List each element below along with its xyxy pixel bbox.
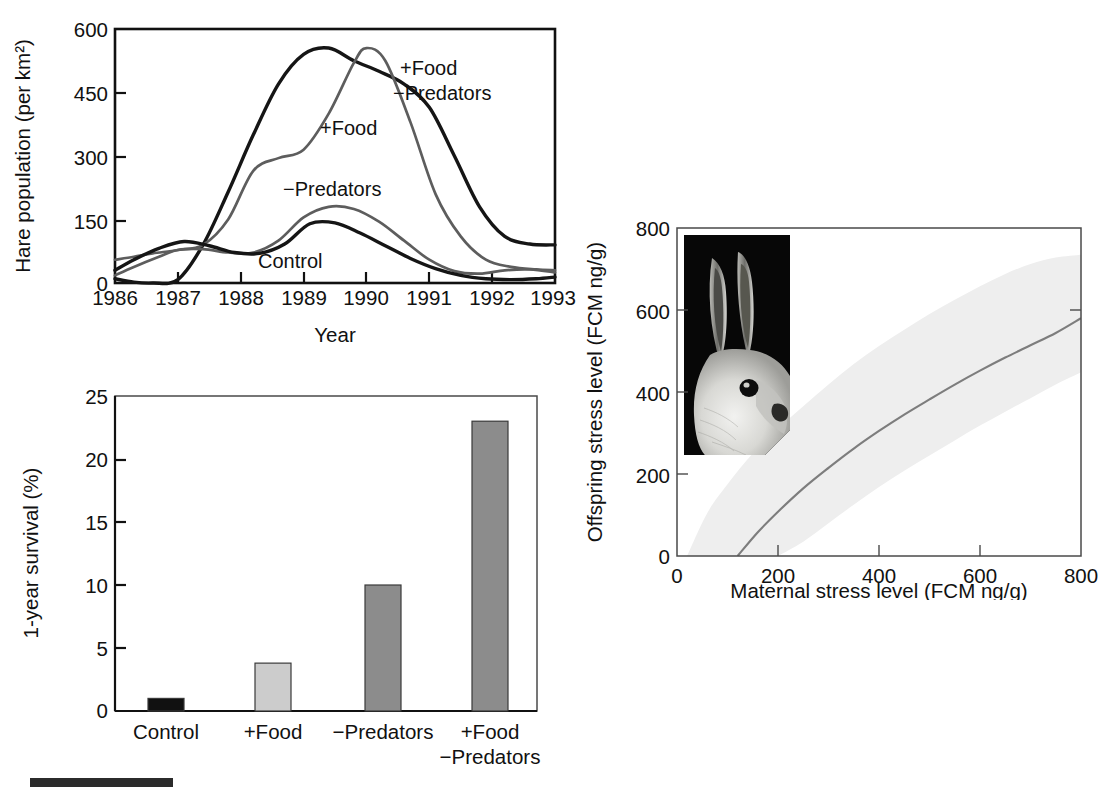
x-tick-1992: 1992 [469, 286, 515, 309]
scatter-x-tick-600: 600 [963, 564, 997, 587]
y-tick-150: 150 [74, 210, 108, 233]
scale-bar [30, 778, 173, 787]
panel-hare-population-timeseries: Hare population (per km²) 600 450 300 15… [0, 0, 580, 370]
annotation-control: Control [258, 250, 322, 272]
y-axis-title: Hare population (per km²) [11, 39, 34, 273]
bar-y-tick-25: 25 [85, 385, 108, 408]
bar-predators[interactable] [365, 585, 401, 711]
scatter-y-tick-800: 800 [636, 217, 670, 240]
bar-y-tick-15: 15 [85, 511, 108, 534]
hare-population-chart-svg: Hare population (per km²) 600 450 300 15… [0, 0, 580, 370]
stress-regression-svg: Offspring stress level (FCM ng/g) 800 60… [560, 180, 1116, 600]
scatter-y-tick-400: 400 [636, 382, 670, 405]
bar-food-predators[interactable] [472, 421, 508, 711]
bars-group [148, 421, 508, 711]
plot-frame [115, 29, 555, 283]
x-tick-1987: 1987 [155, 286, 201, 309]
bar-category-food: +Food [244, 720, 303, 743]
y-tick-300: 300 [74, 146, 108, 169]
scatter-y-tick-0: 0 [659, 545, 670, 568]
y-tick-600: 600 [74, 18, 108, 41]
bar-category-food-predators-line2: −Predators [440, 745, 541, 768]
x-tick-1989: 1989 [281, 286, 327, 309]
scatter-y-tick-200: 200 [636, 464, 670, 487]
x-tick-1990: 1990 [343, 286, 389, 309]
panel-stress-regression: Offspring stress level (FCM ng/g) 800 60… [560, 180, 1116, 600]
scatter-x-tick-400: 400 [862, 564, 896, 587]
bar-y-axis-title: 1-year survival (%) [19, 468, 42, 639]
bar-category-control: Control [133, 720, 199, 743]
scientific-figure: Hare population (per km²) 600 450 300 15… [0, 0, 1116, 794]
x-tick-1991: 1991 [406, 286, 452, 309]
survival-bar-chart-svg: 1-year survival (%) 25 20 15 10 5 0 [0, 370, 580, 770]
panel-one-year-survival: 1-year survival (%) 25 20 15 10 5 0 [0, 370, 580, 770]
bar-y-tick-5: 5 [97, 637, 108, 660]
x-axis-title: Year [314, 323, 356, 346]
bar-y-tick-0: 0 [97, 699, 108, 722]
scatter-y-tick-600: 600 [636, 300, 670, 323]
snowshoe-hare-photo [684, 235, 790, 458]
annotation-predators: −Predators [283, 178, 381, 200]
x-tick-1986: 1986 [92, 286, 138, 309]
annotation-food-predators-line2: −Predators [393, 82, 491, 104]
scatter-x-tick-0: 0 [671, 564, 682, 587]
scatter-y-axis-title: Offspring stress level (FCM ng/g) [583, 242, 606, 542]
bar-y-tick-10: 10 [85, 574, 108, 597]
annotation-food: +Food [320, 117, 377, 139]
bar-food[interactable] [255, 663, 291, 711]
bar-category-predators: −Predators [333, 720, 434, 743]
y-tick-450: 450 [74, 82, 108, 105]
bar-y-tick-20: 20 [85, 448, 108, 471]
bar-control[interactable] [148, 698, 184, 711]
bar-category-food-predators-line1: +Food [461, 720, 520, 743]
x-tick-1988: 1988 [218, 286, 264, 309]
scatter-x-tick-200: 200 [761, 564, 795, 587]
scatter-x-tick-800: 800 [1064, 564, 1098, 587]
annotation-food-predators-line1: +Food [400, 57, 457, 79]
